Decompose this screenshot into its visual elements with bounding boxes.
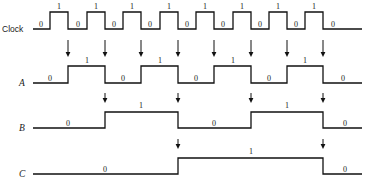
trigger-arrow-b-2 <box>249 93 254 103</box>
trigger-arrow-b-1 <box>176 93 181 103</box>
level-label-clock-0: 0 <box>39 20 43 29</box>
level-label-b-0: 0 <box>66 119 70 128</box>
trigger-arrow-a-1 <box>103 40 108 57</box>
level-label-clock-2: 0 <box>76 20 80 29</box>
arrows-layer <box>66 40 326 149</box>
level-label-a-7: 1 <box>303 56 307 65</box>
level-label-clock-10: 0 <box>221 20 225 29</box>
arrow-head-icon <box>139 52 144 57</box>
arrow-head-icon <box>249 98 254 103</box>
level-label-a-5: 1 <box>231 56 235 65</box>
arrow-head-icon <box>285 52 290 57</box>
timing-diagram: ClockABC 0101010101010101001010101001010… <box>0 0 367 191</box>
trigger-arrow-a-6 <box>285 40 290 57</box>
level-label-clock-12: 0 <box>258 20 262 29</box>
arrow-head-icon <box>176 52 181 57</box>
arrow-head-icon <box>212 52 217 57</box>
level-label-b-1: 1 <box>139 101 143 110</box>
arrow-head-icon <box>176 144 181 149</box>
level-label-clock-11: 1 <box>240 2 244 11</box>
waveform-b <box>33 112 362 128</box>
level-label-clock-14: 0 <box>294 20 298 29</box>
level-label-clock-3: 1 <box>94 2 98 11</box>
level-label-clock-9: 1 <box>203 2 207 11</box>
arrow-head-icon <box>176 98 181 103</box>
level-label-b-4: 0 <box>343 119 347 128</box>
level-label-a-1: 1 <box>85 56 89 65</box>
level-label-clock-6: 0 <box>148 20 152 29</box>
level-label-a-0: 0 <box>48 74 52 83</box>
level-label-clock-1: 1 <box>57 2 61 11</box>
level-label-clock-5: 1 <box>130 2 134 11</box>
row-labels-layer: ClockABC <box>2 24 26 179</box>
arrow-head-icon <box>321 52 326 57</box>
level-label-a-4: 0 <box>194 74 198 83</box>
level-label-a-3: 1 <box>158 56 162 65</box>
level-label-a-2: 0 <box>121 74 125 83</box>
level-label-clock-15: 1 <box>312 2 316 11</box>
trigger-arrow-a-2 <box>139 40 144 57</box>
level-label-clock-7: 1 <box>167 2 171 11</box>
trigger-arrow-a-4 <box>212 40 217 57</box>
level-label-b-2: 0 <box>212 119 216 128</box>
trigger-arrow-a-3 <box>176 40 181 57</box>
arrow-head-icon <box>321 98 326 103</box>
level-label-clock-4: 0 <box>112 20 116 29</box>
arrow-head-icon <box>103 98 108 103</box>
trigger-arrow-a-7 <box>321 40 326 57</box>
level-label-c-1: 1 <box>249 147 253 156</box>
level-label-c-0: 0 <box>103 165 107 174</box>
arrow-head-icon <box>249 52 254 57</box>
timing-diagram-canvas: ClockABC 0101010101010101001010101001010… <box>0 0 367 191</box>
row-label-b: B <box>19 123 25 133</box>
level-labels-layer: 0101010101010101001010101001010010 <box>39 2 347 174</box>
level-label-b-3: 1 <box>285 101 289 110</box>
arrow-head-icon <box>103 52 108 57</box>
waveforms-layer <box>33 12 362 174</box>
level-label-clock-8: 0 <box>185 20 189 29</box>
arrow-head-icon <box>66 52 71 57</box>
row-label-c: C <box>19 169 26 179</box>
level-label-a-6: 0 <box>267 74 271 83</box>
trigger-arrow-c-1 <box>321 139 326 149</box>
row-label-clock: Clock <box>2 24 24 34</box>
trigger-arrow-b-0 <box>103 93 108 103</box>
level-label-a-8: 0 <box>341 74 345 83</box>
trigger-arrow-b-3 <box>321 93 326 103</box>
arrow-head-icon <box>321 144 326 149</box>
trigger-arrow-a-0 <box>66 40 71 57</box>
level-label-clock-13: 1 <box>276 2 280 11</box>
level-label-c-2: 0 <box>343 165 347 174</box>
trigger-arrow-a-5 <box>249 40 254 57</box>
level-label-clock-16: 0 <box>331 20 335 29</box>
row-label-a: A <box>18 78 25 88</box>
waveform-c <box>33 158 362 174</box>
trigger-arrow-c-0 <box>176 139 181 149</box>
waveform-clock <box>33 12 362 29</box>
